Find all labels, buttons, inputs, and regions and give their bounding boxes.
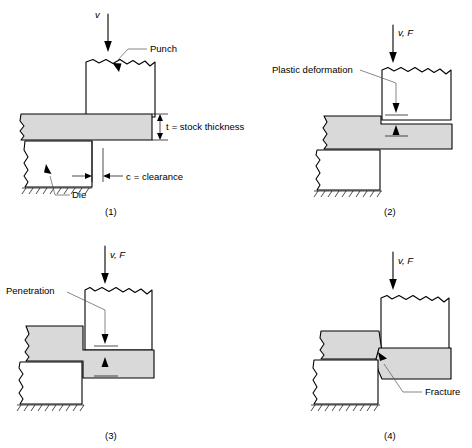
velocity-force-arrow-4 <box>389 252 397 290</box>
panel-1: v Punch <box>0 0 236 224</box>
stock-strip-1 <box>20 114 152 140</box>
die-block-2 <box>316 150 380 190</box>
punch-body-2 <box>382 68 451 121</box>
punch-body-3 <box>85 288 152 351</box>
velocity-label-1: v <box>95 9 101 20</box>
thickness-symbol: t <box>166 121 169 132</box>
die-block-4 <box>313 360 378 404</box>
ground-hatching-2 <box>314 191 382 197</box>
ground-hatching-3 <box>17 405 84 411</box>
punch-label: Punch <box>150 43 177 54</box>
die-block-1 <box>24 141 92 187</box>
panel-caption-2: (2) <box>384 206 396 217</box>
punching-sequence-figure: v Punch <box>0 0 472 448</box>
die-block-3 <box>19 362 82 404</box>
plastic-deformation-label: Plastic deformation <box>272 64 353 75</box>
panel-2: v, F <box>236 0 472 224</box>
velocity-force-arrow-3 <box>101 246 109 284</box>
clearance-text: = clearance <box>134 171 183 182</box>
punch-body-4 <box>381 296 449 355</box>
velocity-force-label-3: v, F <box>110 249 126 260</box>
panel-3: v, F <box>0 224 236 448</box>
fracture-label: Fracture <box>425 386 460 397</box>
clearance-label: c= clearance <box>126 171 183 182</box>
velocity-arrow-1 <box>104 14 112 52</box>
slug-4 <box>376 348 451 379</box>
velocity-force-label-4: v, F <box>398 255 414 266</box>
panel-caption-1: (1) <box>105 206 117 217</box>
velocity-force-arrow-2 <box>389 25 397 63</box>
penetration-label: Penetration <box>6 285 55 296</box>
panel-caption-3: (3) <box>105 430 117 441</box>
clearance-symbol: c <box>126 171 131 182</box>
thickness-label: t= stock thickness <box>166 121 244 132</box>
punch-body-1 <box>86 60 155 118</box>
panel-caption-4: (4) <box>384 430 396 441</box>
panel-4: v, F <box>236 224 472 448</box>
velocity-force-label-2: v, F <box>398 27 414 38</box>
stock-strip-2 <box>323 116 452 149</box>
stock-strip-4 <box>320 331 383 359</box>
die-label: Die <box>72 189 86 200</box>
thickness-text: = stock thickness <box>172 121 245 132</box>
ground-hatching-4 <box>311 405 380 411</box>
